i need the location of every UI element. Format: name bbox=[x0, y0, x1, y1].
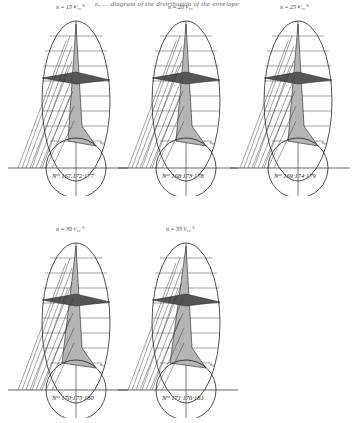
envelope-diagram-3: n₀ n = 25 ⁴⁄₁₀ ° Nᵒˢ 169·174·179 bbox=[230, 6, 350, 196]
inclination-label: n = 20 ¹⁄₁₀ bbox=[168, 4, 193, 10]
specimen-numbers-label: Nᵒˢ 167.172·177 bbox=[52, 172, 94, 179]
inclination-label: n = 25 ⁴⁄₁₀ ° bbox=[280, 4, 309, 10]
envelope-drawing: n₀ bbox=[230, 6, 350, 196]
svg-text:n₀: n₀ bbox=[210, 362, 215, 367]
envelope-diagram-4: n₀ n = 30 ¹⁄₁₀ ° Nᵒˢ 170·175·180 bbox=[8, 228, 128, 418]
svg-text:n₀: n₀ bbox=[100, 362, 105, 367]
envelope-drawing: n₀ bbox=[118, 228, 238, 418]
specimen-numbers-label: Nᵒˢ 169·174·179 bbox=[274, 172, 316, 179]
envelope-drawing: n₀ bbox=[118, 6, 238, 196]
svg-text:n₀: n₀ bbox=[210, 140, 215, 145]
specimen-numbers-label: Nᵒˢ 171·176·181 bbox=[162, 394, 204, 401]
specimen-numbers-label: Nᵒˢ 168·173·178 bbox=[162, 172, 204, 179]
inclination-label: n = 35 ¹⁄₁₀ ° bbox=[166, 226, 194, 232]
envelope-drawing: n₀ bbox=[8, 228, 128, 418]
envelope-diagram-1: n₀ n = 15 ⁴⁄₁₀ ° Nᵒˢ 167.172·177 bbox=[8, 6, 128, 196]
envelope-drawing: n₀ bbox=[8, 6, 128, 196]
inclination-label: n = 30 ¹⁄₁₀ ° bbox=[56, 226, 84, 232]
envelope-diagram-5: n₀ n = 35 ¹⁄₁₀ ° Nᵒˢ 171·176·181 bbox=[118, 228, 238, 418]
svg-text:n₀: n₀ bbox=[100, 140, 105, 145]
svg-text:n₀: n₀ bbox=[322, 140, 327, 145]
specimen-numbers-label: Nᵒˢ 170·175·180 bbox=[52, 394, 94, 401]
inclination-label: n = 15 ⁴⁄₁₀ ° bbox=[56, 4, 85, 10]
envelope-diagram-2: n₀ n = 20 ¹⁄₁₀ Nᵒˢ 168·173·178 bbox=[118, 6, 238, 196]
